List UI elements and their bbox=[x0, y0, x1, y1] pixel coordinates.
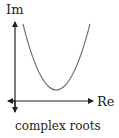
diagram-caption: complex roots bbox=[15, 120, 101, 132]
parabola-curve bbox=[23, 24, 90, 90]
axes-and-curve bbox=[0, 0, 119, 138]
imaginary-axis-label: Im bbox=[6, 3, 23, 16]
complex-roots-diagram: Im Re complex roots bbox=[0, 0, 119, 138]
real-axis-label: Re bbox=[97, 95, 114, 108]
